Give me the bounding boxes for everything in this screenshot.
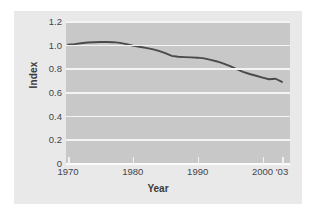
y-tick-label: 0.4 <box>30 110 62 121</box>
x-tick-label: 1990 <box>187 166 208 177</box>
y-axis-tick-labels: 1.21.00.80.60.40.20 <box>30 21 62 163</box>
x-tick-mark <box>263 157 265 164</box>
y-tick-label: 0.8 <box>30 63 62 74</box>
x-tick-label: 2000 <box>252 166 273 177</box>
x-tick-label: 1980 <box>122 166 143 177</box>
y-tick-label: 1.2 <box>30 16 62 27</box>
gridline <box>66 116 290 118</box>
gridline <box>66 92 290 94</box>
x-tick-label: '03 <box>276 166 288 177</box>
chart-figure: Index 1.21.00.80.60.40.20 Year 197019801… <box>14 11 302 204</box>
x-tick-mark <box>68 157 70 164</box>
x-tick-mark <box>198 157 200 164</box>
y-tick-label: 0.2 <box>30 134 62 145</box>
x-tick-label: 1970 <box>57 166 78 177</box>
gridline <box>66 45 290 47</box>
y-tick-label: 0.6 <box>30 87 62 98</box>
gridline <box>66 139 290 141</box>
series-line-index <box>68 42 282 82</box>
x-axis-title: Year <box>14 183 302 194</box>
x-axis-line <box>66 163 290 165</box>
x-tick-mark <box>133 157 135 164</box>
y-tick-label: 1.0 <box>30 39 62 50</box>
x-tick-mark <box>282 157 284 164</box>
plot-area <box>66 21 290 163</box>
gridline <box>66 21 290 23</box>
gridline <box>66 68 290 70</box>
